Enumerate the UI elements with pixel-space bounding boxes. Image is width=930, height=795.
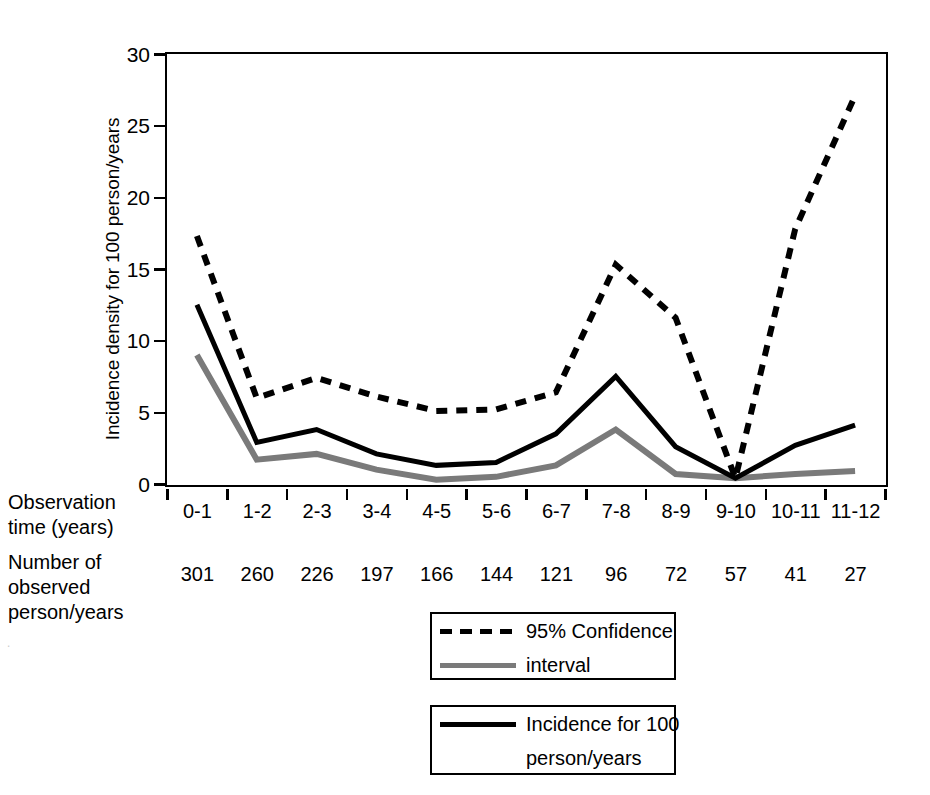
x-tick-mark-12 [884, 489, 887, 500]
observation-time-line1: Observation [8, 490, 116, 515]
y-tick-mark-25 [154, 125, 165, 128]
x-tick-mark-10 [765, 489, 768, 500]
series-line-0 [197, 96, 855, 479]
plot-area [165, 52, 888, 487]
x-tick-mark-1 [226, 489, 229, 500]
x-tick-mark-2 [286, 489, 289, 500]
legend-row-ci-upper: 95% Confidence [432, 614, 674, 648]
y-tick-mark-15 [154, 268, 165, 271]
number-observed-line3: person/years [8, 600, 124, 625]
legend-label-ci-line1: 95% Confidence [526, 620, 673, 643]
x-tick-mark-4 [406, 489, 409, 500]
y-tick-label-5: 5 [106, 402, 150, 423]
observation-time-line2: time (years) [8, 515, 116, 540]
x-category-label-11-12: 11-12 [820, 500, 892, 523]
legend-label-ci-line2: interval [526, 654, 590, 677]
number-observed-line1: Number of [8, 550, 124, 575]
legend-confidence-interval: 95% Confidence interval [430, 612, 676, 680]
observed-person-years-11-12: 27 [820, 563, 892, 586]
legend-label-incidence-line1: Incidence for 100 [526, 713, 679, 736]
y-tick-label-10: 10 [106, 330, 150, 351]
x-tick-mark-11 [824, 489, 827, 500]
chart-figure: Incidence density for 100 person/years 3… [0, 0, 930, 795]
y-tick-mark-20 [154, 197, 165, 200]
series-canvas [167, 54, 885, 484]
y-tick-label-20: 20 [106, 187, 150, 208]
number-observed-row-label: Number of observed person/years [8, 550, 124, 625]
solid-black-line-icon [440, 714, 516, 734]
legend-row-incidence: Incidence for 100 [432, 707, 674, 741]
y-tick-mark-0 [154, 483, 165, 486]
x-tick-mark-0 [166, 489, 169, 500]
solid-gray-line-icon [440, 655, 516, 675]
y-tick-label-30: 30 [106, 44, 150, 65]
x-tick-mark-9 [705, 489, 708, 500]
legend-label-incidence-line2: person/years [526, 747, 642, 770]
observation-time-row-label: Observation time (years) [8, 490, 116, 540]
legend-row-ci-lower: interval [432, 648, 674, 682]
x-tick-mark-3 [346, 489, 349, 500]
x-tick-mark-7 [585, 489, 588, 500]
legend-row-incidence-cont: person/years [432, 741, 674, 775]
legend-incidence: Incidence for 100 person/years [430, 705, 676, 775]
y-tick-mark-30 [154, 53, 165, 56]
y-tick-label-25: 25 [106, 115, 150, 136]
scan-edge-artifact: · [2, 638, 36, 648]
y-tick-mark-10 [154, 340, 165, 343]
x-tick-mark-8 [645, 489, 648, 500]
series-line-2 [197, 355, 855, 480]
number-observed-line2: observed [8, 575, 124, 600]
y-tick-mark-5 [154, 412, 165, 415]
x-tick-mark-5 [465, 489, 468, 500]
x-tick-mark-6 [525, 489, 528, 500]
dashed-black-line-icon [440, 621, 516, 641]
y-tick-label-15: 15 [106, 259, 150, 280]
